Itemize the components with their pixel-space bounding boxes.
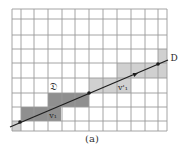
vector-v1-label: v₁ [48, 111, 57, 120]
vector-v1-prime-label: v'₁ [117, 83, 128, 92]
lattice-point [18, 120, 22, 124]
shaded-cell-dark [48, 93, 89, 107]
region-label: 𝔇 [50, 81, 57, 92]
shaded-cells [12, 49, 167, 131]
figure-caption: (a) [0, 133, 184, 144]
digital-line-diagram: 𝔇v₁v'₁D [0, 0, 184, 148]
line-d-label: D [170, 53, 177, 63]
lattice-point [87, 91, 91, 95]
grid-diagram-canvas: 𝔇v₁v'₁D [0, 0, 184, 148]
lattice-point [156, 62, 160, 66]
